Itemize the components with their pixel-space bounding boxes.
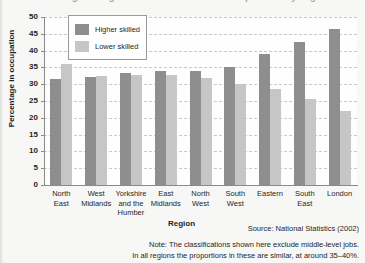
bar-higher-skilled: [85, 77, 96, 185]
y-axis-tick-label: 0: [12, 180, 38, 189]
y-axis-tick-mark: [41, 17, 44, 18]
bar-lower-skilled: [131, 75, 142, 185]
y-axis-tick-label: 15: [12, 130, 38, 139]
y-axis-tick-label: 50: [12, 12, 38, 21]
y-axis-tick-mark: [41, 84, 44, 85]
y-axis-tick-mark: [41, 151, 44, 152]
y-axis-line: [44, 17, 45, 186]
y-axis-tick-mark: [41, 118, 44, 119]
y-axis-tick-label: 5: [12, 163, 38, 172]
bar-lower-skilled: [96, 76, 107, 185]
y-axis-tick-label: 30: [12, 79, 38, 88]
legend-item-lower-skilled: Lower skilled: [75, 38, 141, 55]
y-axis-tick-label: 10: [12, 146, 38, 155]
bar-group: [329, 17, 351, 185]
bar-higher-skilled: [155, 71, 166, 185]
bar-lower-skilled: [340, 111, 351, 185]
legend-swatch-icon-lower-skilled: [75, 41, 89, 52]
bar-group: [190, 17, 212, 185]
bar-higher-skilled: [120, 73, 131, 185]
legend-swatch-icon-higher-skilled: [75, 24, 89, 35]
bar-lower-skilled: [201, 78, 212, 185]
y-axis-tick-mark: [41, 185, 44, 186]
bar-lower-skilled: [305, 99, 316, 185]
bar-higher-skilled: [50, 79, 61, 185]
bar-group: [259, 17, 281, 185]
y-axis-tick-mark: [41, 51, 44, 52]
y-axis-tick-mark: [41, 34, 44, 35]
y-axis-tick-mark: [41, 101, 44, 102]
chart-title: Percentage in higher and lower skilled o…: [28, 0, 332, 2]
y-axis-tick-mark: [41, 168, 44, 169]
bar-group: [155, 17, 177, 185]
bar-group: [224, 17, 246, 185]
footnote-line-2: In all regions the proportions in these …: [132, 251, 359, 260]
y-axis-tick-label: 40: [12, 46, 38, 55]
legend-label-lower-skilled: Lower skilled: [95, 42, 138, 51]
chart-page: Percentage in higher and lower skilled o…: [0, 0, 365, 263]
bar-higher-skilled: [224, 67, 235, 185]
y-axis-tick-mark: [41, 67, 44, 68]
scan-edge-artifact: [0, 0, 3, 263]
bar-lower-skilled: [61, 64, 72, 185]
y-axis-tick-label: 20: [12, 113, 38, 122]
legend-label-higher-skilled: Higher skilled: [95, 25, 140, 34]
bar-lower-skilled: [166, 75, 177, 185]
source-note: Source: National Statistics (2002): [248, 224, 359, 233]
x-axis-category-label: London: [317, 189, 363, 199]
legend: Higher skilled Lower skilled: [68, 15, 147, 60]
y-axis-tick-label: 35: [12, 62, 38, 71]
x-axis-line: [44, 185, 358, 186]
y-axis-tick-label: 45: [12, 29, 38, 38]
x-axis-label: Region: [168, 219, 195, 228]
y-axis-tick-mark: [41, 135, 44, 136]
bar-group: [294, 17, 316, 185]
bar-lower-skilled: [235, 84, 246, 185]
legend-item-higher-skilled: Higher skilled: [75, 21, 141, 38]
bar-higher-skilled: [190, 71, 201, 185]
y-axis-tick-label: 25: [12, 96, 38, 105]
footnote-line-1: Note: The classifications shown here exc…: [149, 240, 359, 249]
bar-higher-skilled: [259, 54, 270, 185]
bar-higher-skilled: [294, 42, 305, 185]
bar-higher-skilled: [329, 29, 340, 185]
bar-lower-skilled: [270, 89, 281, 185]
